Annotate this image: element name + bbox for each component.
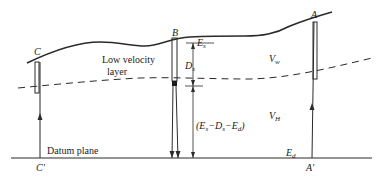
vw-label: Vw <box>269 53 280 66</box>
point-a-prime-label: A′ <box>305 162 315 173</box>
es-label: Es <box>196 37 206 50</box>
weathering-base-dashed-line <box>18 58 372 88</box>
well-c <box>35 62 39 93</box>
datum-plane-label: Datum plane <box>47 145 99 156</box>
layer-label-line2: layer <box>107 66 128 77</box>
ray-b-right <box>176 86 178 158</box>
arrow-down-icon <box>191 80 195 86</box>
ray-b-left <box>172 86 173 158</box>
arrow-up-icon <box>191 86 195 92</box>
layer-label-line1: Low velocity <box>102 54 155 65</box>
formula-label: (Es−Ds−Ed) <box>196 120 245 133</box>
point-c-prime-label: C′ <box>36 162 46 173</box>
well-b <box>172 38 177 81</box>
arrow-up-icon <box>191 43 195 49</box>
ds-label: Ds <box>184 60 195 73</box>
ground-surface-line <box>27 12 332 63</box>
point-b-label: B <box>172 27 178 38</box>
charge-b <box>172 81 177 86</box>
point-a-label: A <box>310 9 318 20</box>
arrow-up-icon <box>38 113 43 120</box>
arrow-down-icon <box>191 152 195 158</box>
arrow-down-icon <box>176 151 181 158</box>
vh-label: VH <box>269 110 281 123</box>
arrow-down-icon <box>170 151 175 158</box>
weathering-diagram: C B A Low velocity layer Es Ds Vw VH (Es… <box>0 0 383 179</box>
arrow-up-icon <box>310 103 315 110</box>
point-c-label: C <box>34 46 41 57</box>
